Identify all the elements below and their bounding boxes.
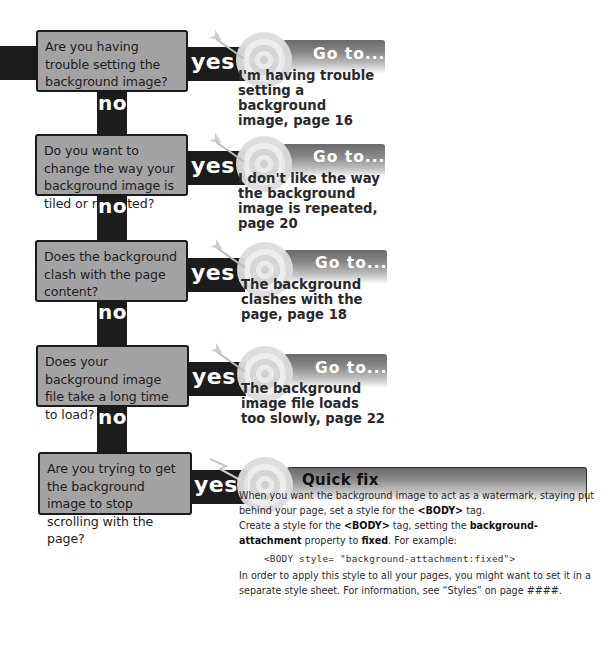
no-label-3: no — [98, 302, 127, 322]
yes-label-2: yes — [191, 153, 235, 178]
yes-label-3: yes — [191, 260, 235, 285]
text: tag. — [463, 505, 485, 516]
code-example: <BODY style= "background-attachment:fixe… — [239, 551, 599, 566]
yes-label-1: yes — [191, 49, 235, 74]
goto-link-2[interactable]: I don't like the way the background imag… — [238, 171, 383, 231]
question-box-3: Does the background clash with the page … — [35, 240, 188, 302]
question-box-4: Does your background image file take a l… — [36, 345, 189, 407]
goto-header-4: Go to... — [315, 359, 388, 377]
text: . For example: — [388, 535, 457, 546]
text: property to — [302, 535, 362, 546]
text: Create a style for the — [239, 520, 344, 531]
question-text-5: Are you trying to get the background ima… — [47, 461, 176, 546]
quick-fix-para-1: When you want the background image to ac… — [239, 488, 599, 518]
quick-fix-header: Quick fix — [302, 471, 379, 489]
goto-header-2: Go to... — [313, 148, 386, 166]
question-box-2: Do you want to change the way your backg… — [35, 134, 188, 196]
quick-fix-para-2: Create a style for the <BODY> tag, setti… — [239, 518, 599, 548]
goto-header-3: Go to... — [315, 254, 388, 272]
goto-link-1[interactable]: I'm having trouble setting a background … — [238, 68, 378, 128]
quick-fix-para-3: In order to apply this style to all your… — [239, 568, 599, 598]
no-label-4: no — [98, 407, 127, 427]
body-tag: <BODY> — [417, 505, 463, 516]
goto-link-3[interactable]: The background clashes with the page, pa… — [241, 277, 381, 322]
property-value: fixed — [361, 535, 388, 546]
goto-header-1: Go to... — [313, 45, 386, 63]
question-text-1: Are you having trouble setting the backg… — [45, 39, 168, 89]
quick-fix-body: When you want the background image to ac… — [239, 488, 599, 598]
question-box-1: Are you having trouble setting the backg… — [36, 30, 188, 92]
text: tag, setting the — [390, 520, 470, 531]
no-label-2: no — [98, 196, 127, 216]
question-box-5: Are you trying to get the background ima… — [38, 452, 192, 515]
no-label-1: no — [98, 93, 127, 113]
question-text-3: Does the background clash with the page … — [44, 249, 177, 299]
goto-link-4[interactable]: The background image file loads too slow… — [241, 381, 386, 426]
body-tag: <BODY> — [344, 520, 390, 531]
yes-label-4: yes — [192, 364, 236, 389]
